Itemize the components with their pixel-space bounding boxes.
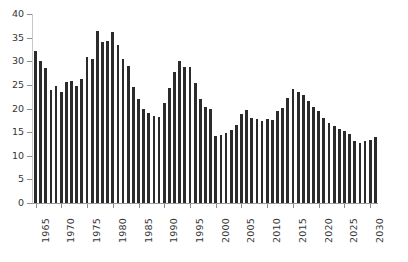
bar — [173, 72, 176, 203]
bar — [364, 141, 367, 203]
x-axis-tick — [319, 204, 320, 208]
bar — [163, 103, 166, 203]
x-axis-tick-label: 2010 — [271, 218, 282, 243]
x-axis-tick-label: 1985 — [143, 218, 154, 243]
x-axis-spine — [32, 203, 378, 204]
bar — [266, 119, 269, 203]
bar — [65, 82, 68, 203]
x-axis-tick — [241, 204, 242, 208]
bar — [204, 107, 207, 203]
bar — [225, 133, 228, 203]
x-axis-tick-label: 1965 — [40, 218, 51, 243]
bar — [34, 51, 37, 203]
y-axis-tick — [27, 203, 32, 204]
x-axis-tick — [61, 204, 62, 208]
bar — [328, 123, 331, 203]
x-axis-tick-label: 1970 — [65, 218, 76, 243]
bar — [286, 98, 289, 203]
x-axis-tick — [36, 204, 37, 208]
bar — [256, 119, 259, 203]
bar — [122, 59, 125, 203]
bar — [271, 120, 274, 203]
bar — [106, 41, 109, 203]
bar — [127, 66, 130, 203]
bar — [117, 45, 120, 203]
bar — [86, 57, 89, 203]
x-axis-tick — [267, 204, 268, 208]
bar — [55, 86, 58, 203]
bar — [312, 107, 315, 203]
bar — [214, 136, 217, 203]
bar — [359, 143, 362, 203]
bar — [348, 134, 351, 203]
y-axis-tick — [27, 38, 32, 39]
x-axis-tick — [139, 204, 140, 208]
bar — [158, 117, 161, 203]
x-axis-tick-label: 2025 — [348, 218, 359, 243]
x-axis-tick — [87, 204, 88, 208]
y-axis-tick-label: 15 — [0, 126, 24, 137]
bar — [261, 121, 264, 203]
bar — [147, 113, 150, 203]
x-axis-tick — [190, 204, 191, 208]
bar — [209, 109, 212, 204]
bar — [142, 109, 145, 204]
bar — [250, 118, 253, 203]
bar — [230, 130, 233, 203]
bar — [50, 90, 53, 203]
bar — [168, 88, 171, 203]
bar — [343, 131, 346, 203]
y-axis-tick-label: 5 — [0, 173, 24, 184]
bar — [194, 83, 197, 203]
bar — [235, 125, 238, 203]
bar — [302, 95, 305, 203]
bar — [322, 118, 325, 203]
x-axis-tick — [216, 204, 217, 208]
bar — [91, 59, 94, 203]
bar — [137, 99, 140, 203]
x-axis-tick-label: 2000 — [220, 218, 231, 243]
bar — [153, 116, 156, 203]
bar — [240, 114, 243, 203]
x-axis-tick-label: 1980 — [117, 218, 128, 243]
y-axis-tick-label: 20 — [0, 103, 24, 114]
bar — [317, 111, 320, 203]
bar — [245, 110, 248, 203]
y-axis-tick-label: 35 — [0, 32, 24, 43]
bar — [333, 126, 336, 203]
x-axis-tick — [164, 204, 165, 208]
x-axis-tick-label: 1995 — [194, 218, 205, 243]
bar — [220, 135, 223, 203]
x-axis-tick-label: 1990 — [168, 218, 179, 243]
bar — [338, 129, 341, 203]
bar — [369, 140, 372, 203]
y-axis-tick-label: 40 — [0, 8, 24, 19]
y-axis-tick-label: 25 — [0, 79, 24, 90]
bar — [281, 108, 284, 203]
bar — [44, 68, 47, 203]
bar — [75, 86, 78, 203]
y-axis-tick — [27, 179, 32, 180]
bar — [60, 92, 63, 203]
x-axis-tick — [370, 204, 371, 208]
y-axis-tick-label: 30 — [0, 55, 24, 66]
bar — [276, 111, 279, 203]
bar — [39, 61, 42, 203]
y-axis-tick — [27, 14, 32, 15]
y-axis-tick-label: 0 — [0, 197, 24, 208]
bar — [292, 89, 295, 203]
bar — [178, 61, 181, 203]
bar — [70, 81, 73, 203]
bar — [199, 99, 202, 203]
x-axis-tick-label: 2005 — [245, 218, 256, 243]
x-axis-tick-label: 1975 — [91, 218, 102, 243]
x-axis-tick — [113, 204, 114, 208]
plot-area — [33, 14, 378, 203]
x-axis-tick-label: 2020 — [323, 218, 334, 243]
bar — [132, 87, 135, 203]
x-axis-tick-label: 2030 — [374, 218, 385, 243]
bar — [374, 137, 377, 203]
y-axis-tick — [27, 61, 32, 62]
bar — [189, 67, 192, 203]
bar — [307, 101, 310, 203]
